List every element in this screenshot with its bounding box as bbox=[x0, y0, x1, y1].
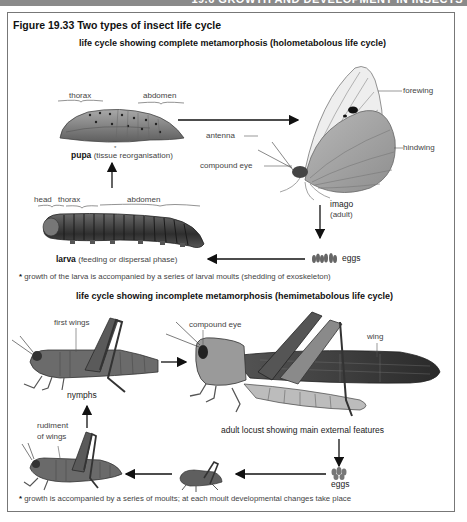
larva-label-thorax: thorax bbox=[58, 195, 80, 204]
pupa-desc: (tissue reorganisation) bbox=[94, 151, 173, 160]
imago-name: imago bbox=[330, 199, 353, 209]
butterfly-illustration bbox=[258, 67, 395, 201]
larva-illustration bbox=[43, 214, 204, 248]
incomplete-metamorphosis-title: life cycle showing incomplete metamorpho… bbox=[76, 291, 393, 301]
locust-label-wing: wing bbox=[367, 332, 383, 341]
imago-desc: (adult) bbox=[330, 210, 353, 219]
imago-label-hindwing: hindwing bbox=[403, 143, 435, 152]
nymph-small-illustration bbox=[180, 462, 222, 492]
note-text: growth is accompanied by a series of mou… bbox=[24, 494, 351, 503]
nymph-label-of-wings: of wings bbox=[37, 432, 66, 441]
larva-caption: larva (feeding or dispersal phase) bbox=[56, 254, 177, 264]
incomplete-metamorphosis-note: * growth is accompanied by a series of m… bbox=[19, 494, 351, 503]
imago-label-antenna: antenna bbox=[206, 131, 235, 140]
nymph-label-rudiment: rudiment bbox=[37, 421, 68, 430]
butterfly-eggs-label: eggs bbox=[342, 253, 360, 263]
locust-caption: adult locust showing main external featu… bbox=[221, 425, 384, 435]
note-text: growth of the larva is accompanied by a … bbox=[24, 272, 330, 281]
note-asterisk: * bbox=[19, 494, 22, 503]
locust-eggs-label: eggs bbox=[331, 479, 349, 489]
note-asterisk: * bbox=[19, 272, 22, 281]
nymphs-label: nymphs bbox=[67, 390, 97, 400]
pupa-illustration: * bbox=[60, 109, 184, 151]
butterfly-eggs-illustration bbox=[312, 253, 337, 263]
locust-label-compound-eye: compound eye bbox=[189, 320, 241, 329]
pupa-caption: pupa (tissue reorganisation) bbox=[71, 150, 173, 160]
larva-desc: (feeding or dispersal phase) bbox=[78, 255, 177, 264]
nymph-label-first-wings: first wings bbox=[54, 318, 90, 327]
pupa-label-thorax: thorax bbox=[69, 91, 91, 100]
complete-metamorphosis-note: * growth of the larva is accompanied by … bbox=[19, 272, 331, 281]
larva-label-abdomen: abdomen bbox=[127, 195, 160, 204]
larva-label-head: head bbox=[34, 195, 52, 204]
larva-name: larva bbox=[56, 254, 76, 264]
pupa-brackets bbox=[58, 100, 184, 104]
nymph-large-illustration bbox=[12, 318, 158, 392]
imago-label-forewing: forewing bbox=[403, 86, 433, 95]
pupa-name: pupa bbox=[71, 150, 91, 160]
pupa-label-abdomen: abdomen bbox=[143, 91, 176, 100]
imago-label-compound-eye: compound eye bbox=[200, 161, 252, 170]
larva-brackets bbox=[38, 204, 200, 208]
